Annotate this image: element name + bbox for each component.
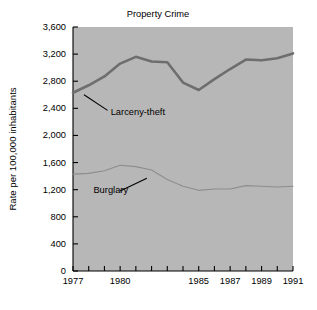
y-tick-label: 800 [50, 212, 66, 222]
plot-area-background [73, 27, 293, 271]
x-tick-label: 1987 [220, 276, 241, 286]
y-tick-label: 2,400 [43, 103, 66, 113]
annotation-label-burglary: Burglary [93, 185, 128, 195]
x-tick-label: 1977 [63, 276, 84, 286]
y-tick-label: 2,800 [43, 76, 66, 86]
y-tick-label: 2,000 [43, 130, 66, 140]
x-tick-label: 1991 [283, 276, 304, 286]
chart-container: 04008001,2001,6002,0002,4002,8003,2003,6… [0, 0, 317, 310]
y-tick-label: 3,200 [43, 49, 66, 59]
chart-title: Property Crime [127, 9, 190, 19]
y-axis-title: Rate per 100,000 inhabitants [7, 87, 18, 210]
annotation-label-larceny-theft: Larceny-theft [111, 107, 166, 117]
x-tick-label: 1980 [110, 276, 131, 286]
y-tick-label: 1,600 [43, 158, 66, 168]
y-tick-label: 3,600 [43, 22, 66, 32]
x-tick-label: 1989 [251, 276, 272, 286]
y-tick-label: 1,200 [43, 185, 66, 195]
property-crime-line-chart: 04008001,2001,6002,0002,4002,8003,2003,6… [0, 0, 317, 310]
y-tick-label: 400 [50, 239, 66, 249]
x-tick-label: 1985 [188, 276, 209, 286]
y-tick-label: 0 [61, 266, 66, 276]
